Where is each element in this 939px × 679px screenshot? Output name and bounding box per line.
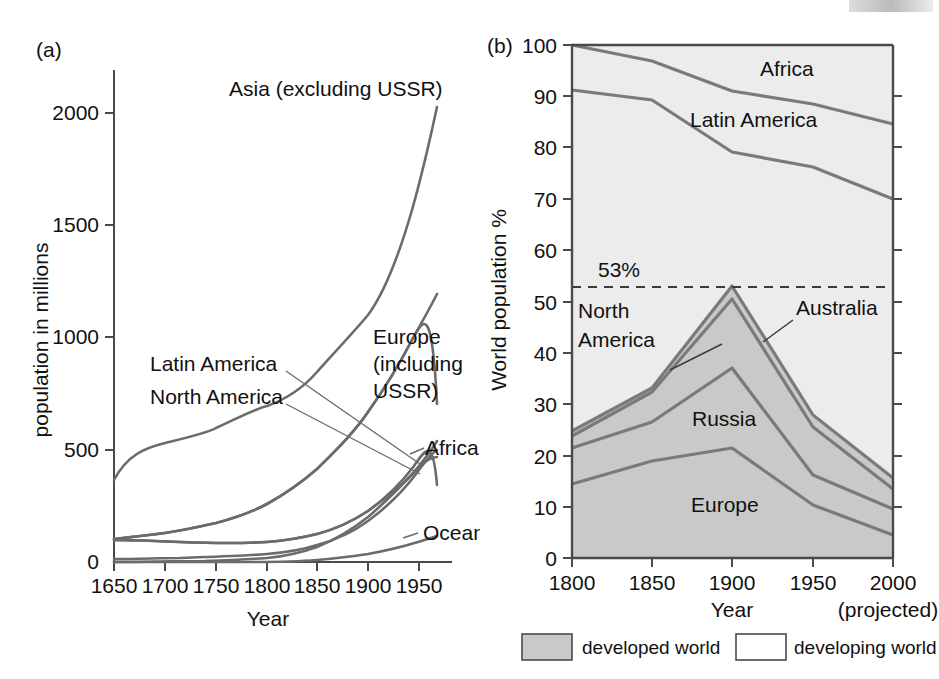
panel-b-xtick-1850: 1850 [629,571,676,594]
panel-a-xtick-1650: 1650 [91,574,138,597]
panel-b-label: (b) [487,34,513,57]
label-north-america: North America [150,385,283,408]
panel-b-ytick-10: 10 [534,496,557,519]
panel-a-xlabel: Year [247,607,289,630]
panel-b-label-north-america-l1: North [578,299,629,322]
panel-b-ytick-40: 40 [534,342,557,365]
panel-b-ytick-50: 50 [534,291,557,314]
panel-b-ytick-60: 60 [534,239,557,262]
panel-b-label-russia: Russia [692,407,757,430]
panel-b-ytick-80: 80 [534,136,557,159]
panel-a-xtick-1750: 1750 [193,574,240,597]
panel-b-ylabel: World population % [487,209,510,391]
panel-a-ytick-0: 0 [87,550,99,573]
panel-a-xtick-1850: 1850 [294,574,341,597]
panel-a-ytick-500: 500 [64,438,99,461]
panel-b-ytick-90: 90 [534,85,557,108]
legend-label-developing: developing world [794,637,937,658]
legend-label-developed: developed world [582,637,720,658]
label-europe-line3: USSR) [373,379,438,402]
panel-a-ytick-1000: 1000 [52,325,99,348]
panel-a-ytick-1500: 1500 [52,213,99,236]
panel-a-xtick-1800: 1800 [244,574,291,597]
panel-b-ytick-100: 100 [522,34,557,57]
legend-swatch-developed [522,634,572,660]
curve-north-america [114,457,437,562]
curve-latin-america [114,450,437,559]
panel-a-ytick-2000: 2000 [52,101,99,124]
label-asia: Asia (excluding USSR) [229,77,443,100]
panel-a-xtick-1900: 1900 [345,574,392,597]
panel-b-label-australia: Australia [796,296,878,319]
panel-b-ytick-30: 30 [534,393,557,416]
panel-a-label: (a) [36,38,62,61]
leader-north-america [286,404,420,474]
figure-root: 2000 1500 1000 500 0 1650 1700 1750 1800… [0,0,939,679]
leader-africa [410,448,424,454]
panel-a-population-lines: 2000 1500 1000 500 0 1650 1700 1750 1800… [0,0,480,679]
leader-oceania [403,533,418,538]
panel-a-xtick-1700: 1700 [142,574,189,597]
panel-b-xtick-1800: 1800 [549,571,596,594]
panel-b-label-latin-america: Latin America [690,108,818,131]
curve-asia [114,107,437,480]
reference-line-label: 53% [598,258,640,281]
panel-b-xlabel: Year [711,598,753,621]
panel-b-xtick-1950: 1950 [790,571,837,594]
panel-a-xtick-1950: 1950 [396,574,443,597]
curve-africa-fix [114,441,437,543]
panel-b-label-north-america-l2: America [578,328,655,351]
label-europe-line1: Europe [373,325,441,348]
panel-b-xtick-2000: 2000 [870,571,917,594]
panel-b-legend: developed world developing world [522,634,937,660]
panel-b-ytick-70: 70 [534,188,557,211]
panel-b-projected-note: (projected) [838,598,938,621]
label-europe-line2: (including [373,352,463,375]
panel-b-label-africa: Africa [760,57,814,80]
panel-a-ylabel: population in millions [29,243,52,438]
panel-b-ytick-0: 0 [545,547,557,570]
panel-b-xtick-1900: 1900 [709,571,756,594]
panel-b-label-europe: Europe [691,493,759,516]
label-latin-america: Latin America [150,352,278,375]
panel-b-world-population-share: 53% [460,0,939,679]
panel-b-ytick-20: 20 [534,445,557,468]
legend-swatch-developing [736,634,786,660]
